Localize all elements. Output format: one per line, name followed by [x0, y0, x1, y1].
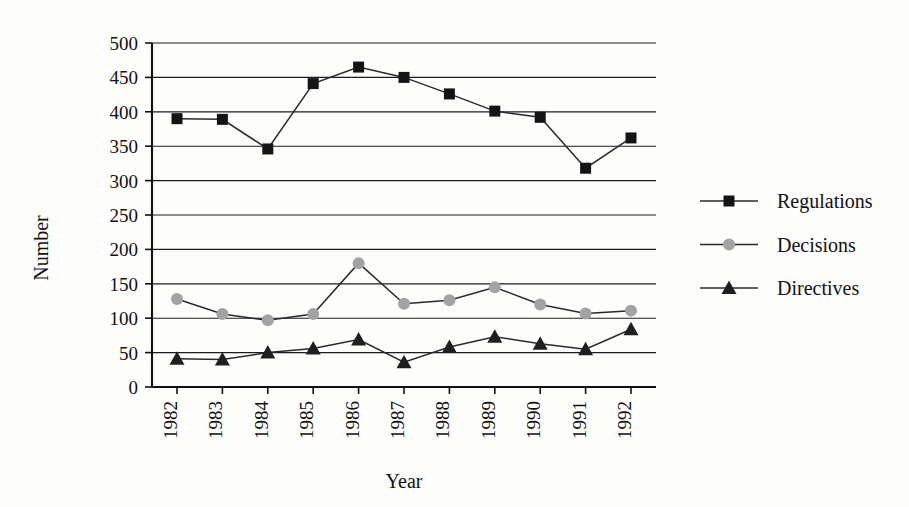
data-point-circle-marker [171, 293, 183, 305]
data-point-circle-marker [216, 308, 228, 320]
y-axis-title: Number [30, 215, 52, 281]
data-point-circle-marker [353, 257, 365, 269]
y-tick-label: 300 [110, 171, 139, 192]
y-tick-label: 500 [110, 33, 139, 54]
data-point-square-marker [262, 143, 273, 154]
y-tick-label: 350 [110, 136, 139, 157]
data-point-circle-marker [489, 281, 501, 293]
x-axis-title: Year [386, 470, 423, 492]
data-point-square-marker [444, 88, 455, 99]
y-tick-label: 250 [110, 205, 139, 226]
y-tick-label: 400 [110, 102, 139, 123]
data-point-square-marker [535, 112, 546, 123]
data-point-circle-marker [443, 294, 455, 306]
y-tick-label: 100 [110, 308, 139, 329]
x-tick-label: 1985 [296, 401, 317, 439]
x-tick-label: 1984 [251, 401, 272, 440]
x-tick-label: 1991 [569, 401, 590, 439]
data-point-square-marker [724, 196, 735, 207]
data-point-circle-marker [723, 239, 735, 251]
y-tick-label: 0 [129, 377, 139, 398]
data-point-circle-marker [398, 298, 410, 310]
data-point-circle-marker [625, 305, 637, 317]
y-tick-label: 50 [119, 343, 138, 364]
data-point-square-marker [489, 106, 500, 117]
x-tick-label: 1992 [614, 401, 635, 439]
data-point-circle-marker [580, 307, 592, 319]
x-tick-label: 1989 [478, 401, 499, 439]
x-tick-label: 1987 [387, 401, 408, 439]
data-point-square-marker [172, 113, 183, 124]
data-point-square-marker [308, 78, 319, 89]
data-point-circle-marker [534, 298, 546, 310]
data-point-square-marker [353, 62, 364, 73]
x-tick-label: 1982 [160, 401, 181, 439]
y-tick-label: 200 [110, 239, 139, 260]
x-tick-label: 1990 [523, 401, 544, 439]
data-point-square-marker [626, 132, 637, 143]
y-tick-label: 150 [110, 274, 139, 295]
data-point-square-marker [580, 163, 591, 174]
x-tick-label: 1983 [205, 401, 226, 439]
data-point-square-marker [399, 72, 410, 83]
y-tick-label: 450 [110, 67, 139, 88]
data-point-circle-marker [262, 314, 274, 326]
x-tick-label: 1988 [432, 401, 453, 439]
data-point-square-marker [217, 114, 228, 125]
legend-label: Decisions [777, 234, 856, 256]
line-chart: 050100150200250300350400450500 198219831… [0, 0, 909, 507]
chart-canvas: 050100150200250300350400450500 198219831… [0, 0, 909, 507]
data-point-circle-marker [307, 308, 319, 320]
legend-label: Regulations [777, 190, 873, 213]
x-tick-label: 1986 [342, 401, 363, 439]
legend-label: Directives [777, 277, 859, 299]
